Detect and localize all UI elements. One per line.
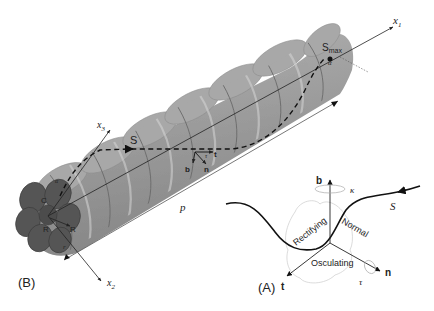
curve-direction-arrow (398, 190, 406, 192)
panel-b-label: (B) (18, 275, 35, 290)
curve-s-label: S (390, 200, 396, 212)
panel-a-label: (A) (258, 280, 275, 295)
rope-silhouette (34, 34, 353, 256)
axis-x1-label: x1 (392, 14, 401, 29)
helical-rope-diagram: x1 x3 x2 S Smax α t b n τ α C R R r p (B… (0, 0, 434, 311)
tau-rotation-icon (362, 258, 378, 275)
osculating-plane-label: Osculating (311, 258, 354, 268)
helix-b-label: b (185, 165, 190, 174)
tau-label: τ (359, 277, 363, 287)
pitch-label: p (179, 201, 186, 213)
small-r-label: r (63, 243, 66, 251)
normal-plane-label: Normal (340, 216, 370, 239)
rectifying-plane-label: Rectifying (291, 215, 328, 247)
helix-t-label: t (214, 150, 217, 159)
axis-x3-label: x3 (96, 119, 105, 133)
panel-a: S b n t κ τ Rectifying Normal Osculating… (226, 175, 420, 295)
radius-label-b: R (70, 225, 76, 234)
axis-x2-label: x2 (106, 277, 115, 291)
binormal-label: b (316, 175, 322, 186)
tangent-label: t (281, 281, 285, 292)
center-label: C (41, 196, 47, 205)
alpha-top-label: α (328, 59, 332, 67)
helix-n-label: n (204, 165, 209, 174)
radius-label-a: R (43, 225, 49, 234)
normal-label: n (385, 267, 391, 278)
kappa-label: κ (350, 185, 355, 195)
helix-curve-label: S (130, 134, 137, 146)
